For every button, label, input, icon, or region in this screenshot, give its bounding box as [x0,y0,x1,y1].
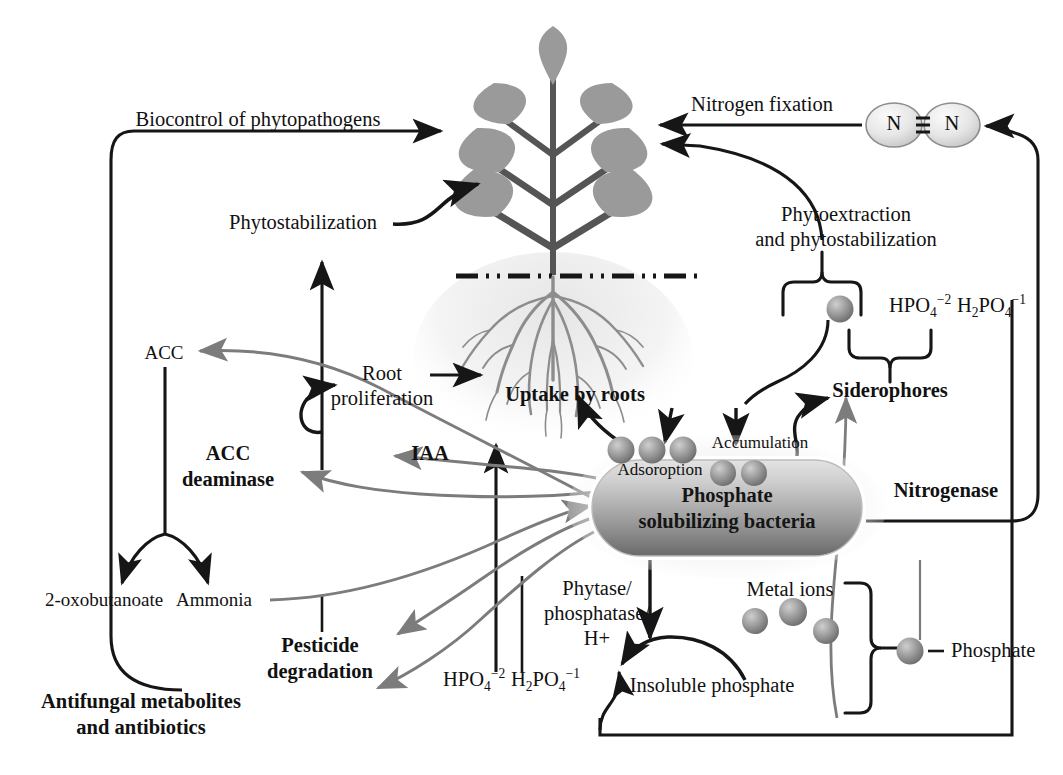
h2po4-head: H [957,294,972,316]
acc-deaminase-label-line1: ACC [206,442,250,465]
h2po4-formula-top: H2PO4−1 [957,292,1026,320]
phytase-label-line3: H+ [584,627,610,650]
nitrogenase-label: Nitrogenase [894,479,998,502]
acc-deaminase-label-line2: deaminase [182,468,274,491]
h2po4-sub1: 2 [972,305,979,320]
siderophores-brace-icon [849,330,931,382]
phytoextraction-label-line1: Phytoextraction [781,203,911,226]
h2po4-sub2-b: 4 [559,679,566,694]
h2po4-mid-b: PO [533,668,559,690]
h2po4-head-b: H [511,668,526,690]
iaa-label: IAA [411,442,449,465]
insoluble-phosphate-label: Insoluble phosphate [630,674,795,697]
phosphate-legend-sphere [897,638,924,665]
nitrogen-atom-left-label: N [887,112,902,135]
h2po4-sub1-b: 2 [526,679,533,694]
phytoextraction-sphere [827,296,854,323]
adsorption-label: Adsoroption [618,460,703,479]
hpo4-formula-top: HPO4−2 [889,292,951,320]
bacteria-label-line1: Phosphate [681,484,772,507]
accumulation-label: Accumulation [712,433,808,452]
ammonia-label: Ammonia [176,589,252,610]
hpo4-sup-b: −2 [491,666,505,681]
diagram-canvas: Biocontrol of phytopathogens Phytostabil… [0,0,1063,775]
siderophores-label: Siderophores [832,379,947,402]
hpo4-head-b: HPO [443,668,484,690]
h2po4-sup: −1 [1012,292,1026,307]
biocontrol-label: Biocontrol of phytopathogens [136,108,381,131]
nitrogen-atom-right-label: N [945,112,960,135]
pesticide-label-line1: Pesticide [281,634,358,657]
acc-label: ACC [144,342,183,363]
h2po4-mid: PO [979,294,1005,316]
metal-ion-spheres [742,598,839,644]
hpo4-sub-b: 4 [484,679,491,694]
metal-ion-brace-icon [845,583,900,713]
phytoextraction-label-line2: and phytostabilization [755,228,937,251]
bacteria-label-line2: solubilizing bacteria [638,510,815,533]
h2po4-sup-b: −1 [566,666,580,681]
root-proliferation-label-line2: proliferation [331,387,433,410]
root-proliferation-label-line1: Root [362,362,402,385]
phytase-label-line2: phosphatase/ [544,602,650,625]
plant-icon [454,26,653,275]
h2po4-formula-bottom: H2PO4−1 [511,666,580,694]
hpo4-sup: −2 [937,292,951,307]
pesticide-label-line2: degradation [267,660,373,683]
uptake-by-roots-label: Uptake by roots [505,383,645,406]
phosphate-uptake-hook [600,672,620,730]
sphere-to-bacteria-line [745,320,828,404]
nitrogen-molecule-icon [866,103,980,147]
phytase-label-line1: Phytase/ [562,577,631,600]
nitrogen-fixation-label: Nitrogen fixation [691,93,833,116]
antifungal-label-line1: Antifungal metabolites [41,690,241,713]
hpo4-formula-bottom: HPO4−2 [443,666,505,694]
metal-ions-label: Metal ions [746,578,833,601]
antifungal-label-line2: and antibiotics [76,716,205,739]
hpo4-sub: 4 [930,305,937,320]
h2po4-sub2: 4 [1005,305,1012,320]
phosphate-label: Phosphate [951,639,1035,662]
oxobutanoate-label: 2-oxobutanoate [45,589,163,610]
hpo4-head: HPO [889,294,930,316]
phytostabilization-label: Phytostabilization [229,211,377,234]
